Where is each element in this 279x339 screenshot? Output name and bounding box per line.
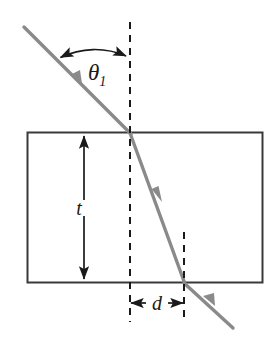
- incident-angle-arc: [61, 50, 127, 58]
- glass-slab-rectangle: [28, 133, 263, 283]
- diagram-canvas: θ1 t d: [0, 0, 279, 339]
- incident-angle-label: θ1: [88, 60, 106, 89]
- exit-ray: [184, 283, 233, 328]
- incident-angle-subscript: 1: [99, 74, 106, 89]
- refracted-ray: [130, 133, 185, 284]
- displacement-label: d: [152, 292, 163, 314]
- thickness-label: t: [76, 197, 82, 219]
- incident-angle-symbol: θ: [88, 60, 99, 85]
- optics-refraction-diagram: θ1 t d: [0, 0, 279, 339]
